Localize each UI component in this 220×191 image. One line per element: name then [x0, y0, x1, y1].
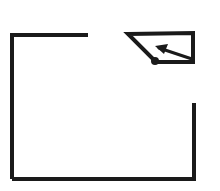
drawing-canvas: Open rectangle outline with detached arr…	[0, 0, 220, 191]
line-drawing: Open rectangle outline with detached arr…	[0, 0, 220, 191]
pointer-vertex-dot	[151, 57, 159, 65]
canvas-background	[0, 0, 220, 191]
